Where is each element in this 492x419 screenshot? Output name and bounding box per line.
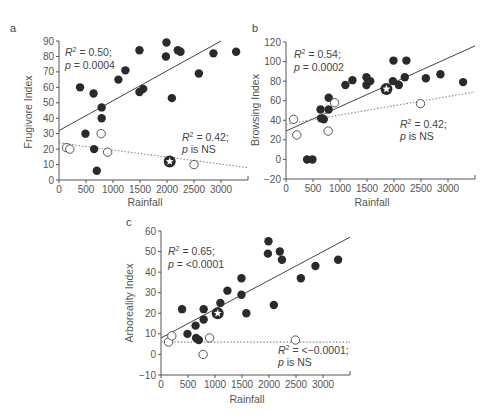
- x-tick-label: 500: [78, 184, 95, 195]
- data-point-filled: [459, 78, 467, 86]
- data-point-filled: [216, 299, 224, 307]
- y-tick-label: −20: [264, 174, 281, 185]
- x-tick-label: 2500: [410, 183, 433, 194]
- data-point-filled: [278, 256, 286, 264]
- annotation-fit-open-b-line2: p is NS: [399, 130, 434, 142]
- annotation-fit-filled-c-line2: p = <0.0001: [167, 258, 224, 270]
- y-tick-label: 50: [43, 97, 55, 108]
- x-tick-label: 0: [158, 379, 164, 390]
- annotation-fit-filled-a-line2: p = 0.0004: [64, 59, 115, 71]
- data-point-filled: [176, 48, 184, 56]
- data-point-filled: [395, 81, 403, 89]
- y-tick-label: 70: [43, 66, 55, 77]
- data-point-filled: [366, 77, 374, 85]
- data-point-filled: [311, 262, 319, 270]
- data-point-open: [103, 148, 111, 156]
- y-tick-label: 0: [48, 175, 54, 186]
- y-tick-label: −10: [139, 370, 156, 381]
- panel-label-b: b: [252, 22, 258, 34]
- y-tick-label: 20: [145, 308, 157, 319]
- annotation-fit-open-b-line1: R2 = 0.42;: [400, 118, 447, 130]
- x-tick-label: 2500: [285, 379, 308, 390]
- fit-line-dotted: [59, 143, 248, 168]
- data-point-filled: [97, 114, 105, 122]
- data-point-filled: [209, 49, 217, 57]
- data-point-filled: [89, 89, 97, 97]
- data-point-filled: [389, 56, 397, 64]
- y-tick-label: 10: [43, 159, 55, 170]
- data-point-filled: [199, 305, 207, 313]
- x-tick-label: 3000: [312, 379, 335, 390]
- data-point-filled: [334, 256, 342, 264]
- x-tick-label: 1500: [356, 183, 379, 194]
- data-point-filled: [81, 129, 89, 137]
- annotation-fit-filled-c-line1: R2 = 0.65;: [168, 245, 215, 257]
- y-tick-label: 40: [270, 115, 282, 126]
- panel-label-c: c: [126, 216, 132, 228]
- annotation-fit-open-a-line2: p is NS: [181, 143, 216, 155]
- annotation-fit-filled-b-line1: R2 = 0.54;: [294, 48, 341, 60]
- y-tick-label: 40: [145, 267, 157, 278]
- y-tick-label: 80: [43, 51, 55, 62]
- y-axis-label-a: Frugivore Index: [22, 75, 34, 149]
- annotation-fit-open-c-line2: p is NS: [277, 356, 312, 368]
- x-tick-label: 500: [305, 183, 322, 194]
- x-tick-label: 2000: [383, 183, 406, 194]
- panel-a-frugivore-chart: a Frugivore Index Rainfall 0500100015002…: [10, 22, 248, 208]
- figure: a Frugivore Index Rainfall 0500100015002…: [0, 0, 492, 419]
- y-tick-label: 50: [145, 246, 157, 257]
- x-tick-label: 2000: [156, 184, 179, 195]
- data-point-open: [324, 127, 332, 135]
- data-point-filled: [121, 66, 129, 74]
- x-tick-label: 1500: [231, 379, 254, 390]
- data-point-filled: [341, 81, 349, 89]
- x-axis-label-c: Rainfall: [229, 393, 264, 405]
- y-tick-label: 100: [264, 56, 281, 67]
- x-tick-label: 0: [283, 183, 289, 194]
- y-tick-label: 40: [43, 113, 55, 124]
- data-point-filled: [232, 48, 240, 56]
- data-point-filled: [223, 286, 231, 294]
- data-point-filled: [436, 70, 444, 78]
- x-tick-label: 500: [180, 379, 197, 390]
- data-point-filled: [183, 330, 191, 338]
- y-tick-label: 30: [43, 128, 55, 139]
- x-tick-label: 2500: [183, 184, 206, 195]
- data-point-open: [190, 160, 198, 168]
- annotation-fit-open-c-line1: R2 = <−0.0001;: [278, 344, 349, 356]
- data-point-filled: [264, 249, 272, 257]
- x-tick-label: 1500: [129, 184, 152, 195]
- annotation-fit-open-a-line1: R2 = 0.42;: [182, 131, 229, 143]
- x-tick-label: 3000: [210, 184, 233, 195]
- data-point-open: [205, 334, 213, 342]
- y-axis-label-b: Browsing Index: [249, 73, 261, 146]
- x-axis-label-a: Rainfall: [127, 196, 162, 208]
- data-point-filled: [308, 155, 316, 163]
- data-point-filled: [237, 291, 245, 299]
- x-tick-label: 3000: [437, 183, 460, 194]
- data-point-filled: [162, 52, 170, 60]
- x-tick-label: 0: [56, 184, 62, 195]
- y-tick-label: 60: [43, 82, 55, 93]
- annotation-fit-filled-a-line1: R2 = 0.50;: [65, 46, 112, 58]
- data-point-filled: [139, 85, 147, 93]
- data-point-filled: [324, 105, 332, 113]
- data-point-filled: [297, 274, 305, 282]
- y-tick-label: 80: [270, 76, 282, 87]
- y-tick-label: 0: [275, 154, 281, 165]
- data-point-filled: [422, 74, 430, 82]
- data-point-filled: [178, 305, 186, 313]
- x-tick-label: 1000: [204, 379, 227, 390]
- data-point-filled: [276, 247, 284, 255]
- data-point-filled: [114, 75, 122, 83]
- data-point-filled: [135, 46, 143, 54]
- data-point-filled: [168, 94, 176, 102]
- data-point-filled: [191, 321, 199, 329]
- data-point-open: [291, 336, 299, 344]
- panel-label-a: a: [10, 22, 17, 34]
- x-tick-label: 1000: [102, 184, 125, 195]
- annotation-fit-filled-b-line2: p = 0.0002: [293, 61, 344, 73]
- data-point-open: [289, 115, 297, 123]
- data-point-open: [293, 131, 301, 139]
- data-point-filled: [97, 103, 105, 111]
